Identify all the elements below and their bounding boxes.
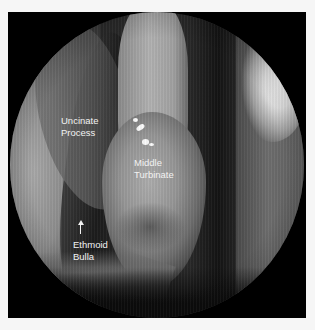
- up-arrow-icon: [78, 220, 84, 225]
- label-uncinate-process: Uncinate Process: [61, 115, 99, 139]
- endoscope-frame: Uncinate Process Middle Turbinate Ethmoi…: [8, 12, 306, 318]
- label-line: Middle: [134, 157, 174, 169]
- label-line: Process: [61, 127, 99, 139]
- arrow-shaft: [80, 224, 81, 234]
- label-ethmoid-bulla: Ethmoid Bulla: [73, 239, 108, 263]
- label-line: Bulla: [73, 251, 108, 263]
- label-middle-turbinate: Middle Turbinate: [134, 157, 174, 181]
- label-line: Uncinate: [61, 115, 99, 127]
- label-line: Turbinate: [134, 169, 174, 181]
- label-line: Ethmoid: [73, 239, 108, 251]
